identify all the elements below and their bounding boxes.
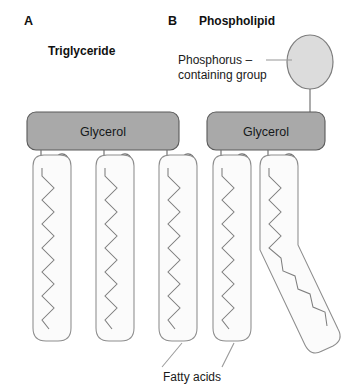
glycerol-block-b: Glycerol: [207, 112, 325, 150]
head-group-shape: [287, 35, 333, 89]
fatty-acids-label: Fatty acids: [163, 370, 221, 384]
lipid-structure-diagram: A Triglyceride Glycerol O O O: [0, 0, 356, 390]
panel-b-title: Phospholipid: [199, 14, 275, 28]
glycerol-block-a: Glycerol: [27, 112, 179, 150]
fatty-acid-chain: O: [213, 150, 251, 341]
glycerol-box-b-label: Glycerol: [243, 125, 289, 139]
panel-b-letter: B: [168, 14, 177, 28]
chain-outline: [159, 155, 197, 341]
glycerol-box-a-label: Glycerol: [80, 125, 126, 139]
head-group-callout-line1: Phosphorus –: [178, 53, 252, 67]
fatty-acid-chain: O: [96, 150, 134, 341]
panel-a-title: Triglyceride: [48, 44, 116, 58]
chain-outline: [213, 155, 251, 341]
panel-a-letter: A: [24, 14, 33, 28]
chain-outline: [33, 155, 71, 341]
fatty-acid-chain: O: [33, 150, 71, 341]
chain-outline: [96, 155, 134, 341]
head-group-callout-line2: containing group: [178, 68, 267, 82]
fatty-acid-chain: O: [159, 150, 197, 341]
